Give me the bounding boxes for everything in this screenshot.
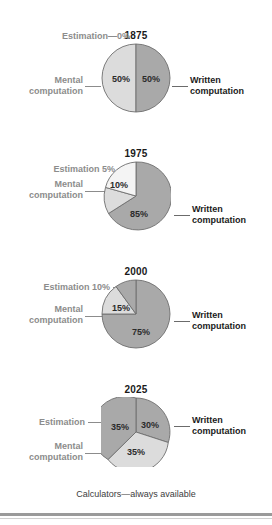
pie-2000: 15% 75% xyxy=(101,279,171,349)
written-label-2025: Written computation xyxy=(192,415,272,437)
written-label-2000: Written computation xyxy=(192,310,272,332)
chart-title-2025: 2025 xyxy=(0,384,272,395)
written-label-1975: Written computation xyxy=(192,204,272,226)
pie-svg-1875: 50% 50% xyxy=(101,43,171,113)
mental-label-line2: computation xyxy=(29,86,83,96)
chart-2025: 2025 Estimation Mental computation Writt… xyxy=(0,384,272,496)
pct-mental-2025: 35% xyxy=(127,447,145,457)
mental-label-2025: Mental computation xyxy=(0,441,83,463)
written-label-line2: computation xyxy=(192,321,246,331)
mental-label-line1: Mental xyxy=(54,75,83,85)
pct-written-2000: 75% xyxy=(132,327,150,337)
leader-line-written-2000 xyxy=(174,321,190,322)
estimation-label-1975: Estimation 5% xyxy=(0,164,115,175)
written-label-line1: Written xyxy=(192,310,223,320)
pie-1875: 50% 50% xyxy=(101,43,171,113)
pct-mental-2000: 15% xyxy=(112,303,130,313)
estimation-label-1875: Estimation—0% xyxy=(10,31,130,42)
pct-estimation-2025: 35% xyxy=(111,422,129,432)
mental-label-line1: Mental xyxy=(54,441,83,451)
bottom-rule-thin xyxy=(0,518,272,519)
pie-2025: 30% 35% 35% xyxy=(101,397,171,467)
chart-2000: 2000 Estimation 10% Mental computation W… xyxy=(0,266,272,378)
mental-label-2000: Mental computation xyxy=(0,304,83,326)
pie-chart-figure: 1875 Estimation—0% Mental computation Wr… xyxy=(0,0,272,525)
mental-label-line1: Mental xyxy=(54,179,83,189)
written-label-1875: Written computation xyxy=(190,75,272,97)
mental-label-line1: Mental xyxy=(54,304,83,314)
pct-mental-1975: 10% xyxy=(110,180,128,190)
pct-written-1875: 50% xyxy=(142,74,160,84)
figure-caption: Calculators—always available xyxy=(0,489,272,499)
bottom-rule xyxy=(0,513,272,516)
mental-label-1875: Mental computation xyxy=(0,75,83,97)
leader-line-written-1875 xyxy=(172,86,188,87)
leader-line-written-2025 xyxy=(174,426,190,427)
chart-title-2000: 2000 xyxy=(0,266,272,277)
mental-label-line2: computation xyxy=(29,315,83,325)
leader-line-written-1975 xyxy=(174,215,190,216)
written-label-line1: Written xyxy=(192,415,223,425)
written-label-line1: Written xyxy=(192,204,223,214)
written-label-line1: Written xyxy=(190,75,221,85)
written-label-line2: computation xyxy=(192,426,246,436)
pie-svg-2000: 15% 75% xyxy=(101,279,171,349)
pie-1975: 10% 85% xyxy=(101,161,171,231)
mental-label-line2: computation xyxy=(29,190,83,200)
mental-label-line2: computation xyxy=(29,452,83,462)
pct-written-1975: 85% xyxy=(130,209,148,219)
pie-svg-2025: 30% 35% 35% xyxy=(101,397,171,467)
estimation-label-2025: Estimation xyxy=(0,417,85,428)
pie-svg-1975: 10% 85% xyxy=(101,161,171,231)
chart-title-1975: 1975 xyxy=(0,148,272,159)
pct-mental-1875: 50% xyxy=(112,74,130,84)
written-label-line2: computation xyxy=(190,86,244,96)
estimation-label-2000: Estimation 10% xyxy=(0,282,110,293)
pct-written-2025: 30% xyxy=(141,420,159,430)
chart-1975: 1975 Estimation 5% Mental computation Wr… xyxy=(0,148,272,260)
chart-1875: 1875 Estimation—0% Mental computation Wr… xyxy=(0,30,272,140)
leader-line-mental-1875 xyxy=(85,86,101,87)
mental-label-1975: Mental computation xyxy=(0,179,83,201)
written-label-line2: computation xyxy=(192,215,246,225)
